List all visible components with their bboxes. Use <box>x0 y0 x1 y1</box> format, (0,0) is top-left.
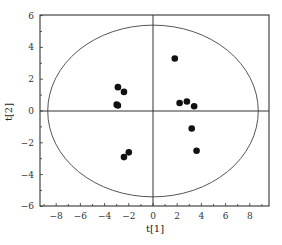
y-tick-label: 4 <box>28 42 34 52</box>
y-tick-label: 0 <box>28 106 34 116</box>
x-tick-label: 8 <box>247 211 253 221</box>
data-point <box>126 149 133 156</box>
y-tick-label: 6 <box>28 11 34 21</box>
x-tick-label: 0 <box>150 211 156 221</box>
data-point <box>121 89 128 96</box>
score-scatter-plot: −8−6−4−202468−6−4−20246 t[1] t[2] <box>0 0 282 245</box>
data-point <box>176 100 183 107</box>
data-points <box>113 55 199 160</box>
x-axis-title: t[1] <box>146 223 164 234</box>
x-tick-label: 2 <box>174 211 180 221</box>
x-tick-label: −6 <box>74 211 88 221</box>
data-point <box>191 103 198 110</box>
y-tick-label: 2 <box>28 74 34 84</box>
x-tick-label: −2 <box>122 211 135 221</box>
data-point <box>115 102 122 109</box>
data-point <box>188 125 195 132</box>
data-point <box>121 154 128 161</box>
data-point <box>115 84 122 91</box>
data-point <box>184 98 191 105</box>
axis-ticks: −8−6−4−202468−6−4−20246 <box>21 11 262 221</box>
x-tick-label: 4 <box>199 211 205 221</box>
y-tick-label: −6 <box>21 201 35 211</box>
y-tick-label: −2 <box>21 138 34 148</box>
y-tick-label: −4 <box>21 170 35 180</box>
data-point <box>171 55 178 62</box>
y-axis-title: t[2] <box>3 103 14 121</box>
x-tick-label: −8 <box>50 211 64 221</box>
x-tick-label: 6 <box>223 211 229 221</box>
data-point <box>193 147 200 154</box>
reference-lines <box>40 15 269 206</box>
x-tick-label: −4 <box>98 211 112 221</box>
